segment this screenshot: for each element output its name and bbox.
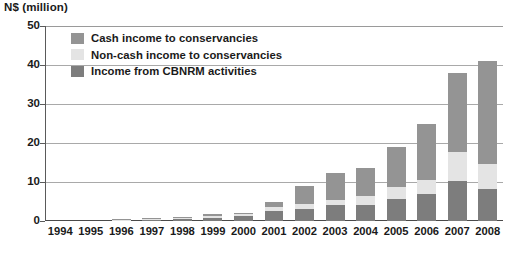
- bar-group-1998[interactable]: [173, 217, 192, 221]
- x-tick-label-1994: 1994: [45, 226, 76, 237]
- x-tick-label-2001: 2001: [259, 226, 290, 237]
- bar-segment[interactable]: [448, 181, 467, 221]
- legend-item[interactable]: Non-cash income to conservancies: [71, 48, 282, 62]
- bar-group-2004[interactable]: [356, 168, 375, 221]
- x-tick-label-1998: 1998: [167, 226, 198, 237]
- x-tick-label-1995: 1995: [76, 226, 107, 237]
- bar-segment[interactable]: [203, 214, 222, 216]
- x-tick-label-2000: 2000: [228, 226, 259, 237]
- x-tick-label-2003: 2003: [320, 226, 351, 237]
- bar-group-2006[interactable]: [417, 124, 436, 222]
- bar-segment[interactable]: [448, 152, 467, 182]
- legend-swatch-icon: [71, 49, 84, 60]
- y-axis-title: N$ (million): [4, 1, 68, 13]
- x-tick-label-2006: 2006: [411, 226, 442, 237]
- bar-segment[interactable]: [448, 73, 467, 152]
- legend-item-label: Income from CBNRM activities: [91, 65, 257, 77]
- bar-segment[interactable]: [326, 173, 345, 200]
- bar-segment[interactable]: [295, 204, 314, 209]
- bar-segment[interactable]: [356, 205, 375, 221]
- legend-item-label: Non-cash income to conservancies: [91, 49, 282, 61]
- bar-group-2005[interactable]: [387, 147, 406, 221]
- bar-segment[interactable]: [203, 216, 222, 217]
- x-tick-label-2008: 2008: [472, 226, 503, 237]
- bar-segment[interactable]: [326, 205, 345, 221]
- bar-group-2008[interactable]: [478, 61, 497, 221]
- legend-item[interactable]: Income from CBNRM activities: [71, 64, 282, 78]
- bar-segment[interactable]: [356, 196, 375, 204]
- y-tick-label-10: 10: [2, 176, 40, 188]
- bar-segment[interactable]: [203, 218, 222, 222]
- legend-item[interactable]: Cash income to conservancies: [71, 31, 282, 45]
- bar-segment[interactable]: [173, 219, 192, 221]
- legend-swatch-icon: [71, 33, 84, 44]
- bar-segment[interactable]: [387, 187, 406, 199]
- y-tick-label-30: 30: [2, 98, 40, 110]
- x-tick-label-1996: 1996: [106, 226, 137, 237]
- x-tick-label-2005: 2005: [381, 226, 412, 237]
- bar-segment[interactable]: [417, 180, 436, 194]
- bar-segment[interactable]: [417, 124, 436, 180]
- bar-segment[interactable]: [234, 216, 253, 221]
- bar-segment[interactable]: [387, 199, 406, 221]
- bar-group-2002[interactable]: [295, 186, 314, 221]
- bar-segment[interactable]: [142, 218, 161, 219]
- chart-legend: Cash income to conservanciesNon-cash inc…: [71, 31, 282, 81]
- bar-segment[interactable]: [478, 189, 497, 221]
- bar-segment[interactable]: [265, 207, 284, 211]
- bar-segment[interactable]: [265, 202, 284, 207]
- bar-segment[interactable]: [478, 164, 497, 189]
- bar-group-1999[interactable]: [203, 214, 222, 221]
- bar-segment[interactable]: [478, 61, 497, 164]
- y-tick-label-20: 20: [2, 137, 40, 149]
- bar-segment[interactable]: [142, 219, 161, 221]
- bar-segment[interactable]: [173, 218, 192, 219]
- bar-group-2001[interactable]: [265, 202, 284, 221]
- x-tick-label-1997: 1997: [137, 226, 168, 237]
- y-tick-label-50: 50: [2, 20, 40, 32]
- bar-segment[interactable]: [326, 200, 345, 206]
- x-tick-label-2007: 2007: [442, 226, 473, 237]
- bar-segment[interactable]: [234, 213, 253, 215]
- bar-segment[interactable]: [112, 220, 131, 221]
- bar-group-2007[interactable]: [448, 73, 467, 221]
- income-stacked-bar-chart: N$ (million) 50403020100 199419951996199…: [0, 0, 515, 261]
- bar-segment[interactable]: [387, 147, 406, 188]
- bar-segment[interactable]: [295, 186, 314, 204]
- bar-segment[interactable]: [417, 194, 436, 221]
- bar-segment[interactable]: [356, 168, 375, 196]
- bar-group-2003[interactable]: [326, 173, 345, 221]
- bar-segment[interactable]: [295, 209, 314, 221]
- bar-segment[interactable]: [234, 214, 253, 216]
- bar-group-1996[interactable]: [112, 219, 131, 221]
- x-tick-label-1999: 1999: [198, 226, 229, 237]
- y-tick-label-40: 40: [2, 59, 40, 71]
- x-tick-label-2002: 2002: [289, 226, 320, 237]
- x-tick-label-2004: 2004: [350, 226, 381, 237]
- legend-swatch-icon: [71, 66, 84, 77]
- y-tick-mark-0: [40, 221, 45, 222]
- bar-segment[interactable]: [265, 211, 284, 221]
- bar-group-1997[interactable]: [142, 218, 161, 221]
- bar-segment[interactable]: [173, 217, 192, 218]
- x-axis-labels: 1994199519961997199819992000200120022003…: [45, 226, 503, 246]
- legend-item-label: Cash income to conservancies: [91, 32, 258, 44]
- bar-group-2000[interactable]: [234, 213, 253, 221]
- y-tick-label-0: 0: [2, 215, 40, 227]
